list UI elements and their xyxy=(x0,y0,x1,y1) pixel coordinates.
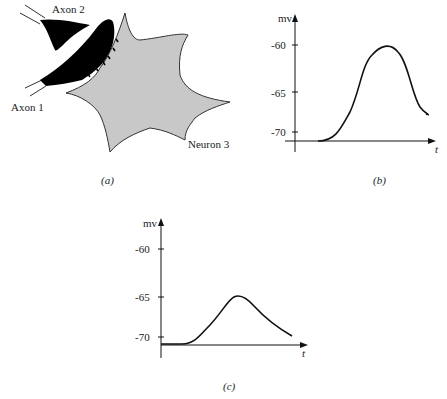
tick-minus70: -70 xyxy=(135,331,150,343)
tick-minus60: -60 xyxy=(135,243,150,255)
axon1-fiber xyxy=(30,86,46,96)
potential-curve xyxy=(318,46,428,141)
panel-a-neuron-diagram: Axon 2 Axon 1 Neuron 3 (a) xyxy=(11,3,230,187)
tick-minus65: -65 xyxy=(135,291,150,303)
tick-minus60: -60 xyxy=(271,39,286,51)
axon1-label: Axon 1 xyxy=(11,101,44,113)
neuron3-body xyxy=(66,13,230,152)
x-axis-label: t xyxy=(435,143,439,155)
y-axis-label: mv xyxy=(143,217,158,229)
panel-b-caption: (b) xyxy=(373,174,386,187)
axon2-fiber xyxy=(25,5,45,18)
y-axis-label: mv xyxy=(278,12,293,24)
potential-curve xyxy=(161,296,292,344)
panel-a-caption: (a) xyxy=(101,174,114,187)
neuron3-label: Neuron 3 xyxy=(188,138,230,150)
panel-c-chart: mv -60 -65 -70 t (c) xyxy=(135,217,306,393)
panel-c-caption: (c) xyxy=(223,380,236,393)
axon2-fiber xyxy=(20,13,40,24)
tick-minus70: -70 xyxy=(271,126,286,138)
panel-b-chart: mv -60 -65 -70 t (b) xyxy=(271,12,439,187)
tick-minus65: -65 xyxy=(271,87,286,99)
axon2-label: Axon 2 xyxy=(52,3,85,15)
x-axis-label: t xyxy=(302,347,306,359)
axon1-fiber xyxy=(25,80,42,88)
figure: Axon 2 Axon 1 Neuron 3 (a) mv -60 -65 -7… xyxy=(0,0,447,399)
